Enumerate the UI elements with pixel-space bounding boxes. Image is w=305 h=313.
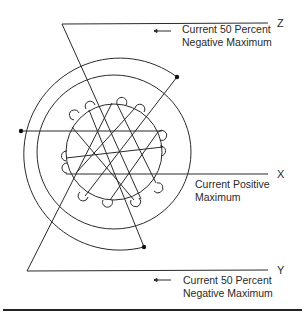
diagonal-winding-3 [76, 108, 135, 173]
caption-z-line1: Current 50 Percent [182, 23, 271, 35]
stator-rings [24, 58, 191, 250]
caption-z-line2: Negative Maximum [182, 36, 272, 48]
terminal-dots [19, 75, 179, 249]
caption-x-line1: Current Positive [195, 178, 270, 190]
arrow-icon-z [154, 30, 171, 33]
diagonal-winding-1 [85, 77, 177, 196]
arrow-icon-y [154, 279, 171, 282]
inner-rotor-circle [66, 104, 162, 200]
terminal-dot-top-right [175, 75, 179, 79]
caption-y-line1: Current 50 Percent [183, 274, 272, 286]
stator-winding-diagram: Z X Y Current 50 Percent Negative Maximu… [0, 0, 305, 313]
caption-x-line2: Maximum [195, 191, 241, 203]
winding-lines [21, 23, 268, 271]
terminal-dot-bottom [142, 245, 146, 249]
z-phase-winding [62, 23, 268, 199]
terminal-dot-left [19, 129, 23, 133]
slanted-winding [66, 147, 163, 158]
diagonal-winding-6 [110, 132, 158, 200]
axis-label-x: X [277, 168, 285, 180]
caption-y-line2: Negative Maximum [183, 287, 273, 299]
axis-label-y: Y [277, 264, 285, 276]
axis-label-z: Z [277, 17, 284, 29]
